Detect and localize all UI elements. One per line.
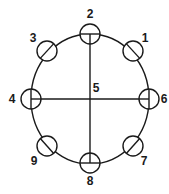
pin-layout-diagram: 12346789 5 (0, 0, 169, 194)
pin-label: 2 (87, 7, 94, 21)
pin-2: 2 (80, 7, 100, 44)
pin-4: 4 (9, 89, 41, 109)
pin-6: 6 (139, 89, 168, 109)
pin-label: 6 (161, 92, 168, 106)
center-label: 5 (93, 81, 100, 95)
pin-label: 4 (9, 92, 16, 106)
pin-9: 9 (31, 136, 57, 168)
pin-label: 3 (30, 31, 37, 45)
pin-group: 12346789 (9, 7, 168, 188)
pin-7: 7 (123, 136, 148, 168)
pin-label: 9 (31, 154, 38, 168)
pin-1: 1 (123, 31, 149, 61)
pin-label: 1 (142, 31, 149, 45)
pin-8: 8 (80, 153, 100, 188)
pin-label: 8 (87, 174, 94, 188)
pin-3: 3 (30, 31, 57, 61)
pin-label: 7 (141, 154, 148, 168)
